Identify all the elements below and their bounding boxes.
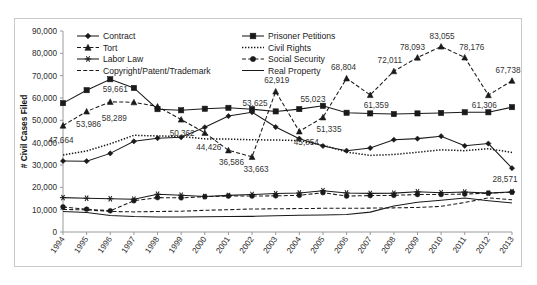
x-tick-label: 1999 [167,235,185,255]
data-point-label: 83,055 [430,32,455,41]
x-tick-label: 1996 [96,235,114,255]
data-point-label: 78,093 [400,43,425,52]
y-tick-label: 30,000 [32,161,57,170]
x-tick-label: 2001 [214,235,232,255]
x-tick-label: 2008 [380,235,398,255]
x-tick-label: 1994 [49,235,67,255]
y-tick-label: 60,000 [32,94,57,103]
x-axis: 1994199519961997199819992000200120022003… [49,232,516,255]
legend-item[interactable]: Social Security [242,54,326,64]
x-tick-label: 2012 [474,235,492,255]
y-tick-label: 70,000 [32,72,57,81]
legend-item[interactable]: Contract [77,31,136,41]
legend-item[interactable]: Civil Rights [242,43,311,53]
data-point-label: 51,335 [316,125,341,134]
legend-label: Contract [103,31,136,41]
legend-item[interactable]: Real Property [242,66,321,76]
y-tick-label: 50,000 [32,116,57,125]
series-line [63,135,512,155]
data-point-label: 61,306 [472,101,497,110]
legend-item[interactable]: Tort [77,43,118,53]
x-tick-label: 2004 [285,235,303,255]
data-point-label: 61,359 [364,101,389,110]
legend-item[interactable]: Labor Law [77,54,144,64]
data-point-label: 72,011 [378,56,403,65]
series-line [63,192,512,211]
data-point-label: 55,023 [300,95,325,104]
data-point-label: 67,738 [495,66,520,75]
y-tick-label: 90,000 [32,27,57,36]
data-point-label: 33,663 [244,165,269,174]
x-tick-label: 1997 [120,235,138,255]
data-point-label: 68,804 [331,63,356,72]
x-tick-label: 2002 [238,235,256,255]
x-tick-label: 2003 [262,235,280,255]
data-point-label: 53,986 [76,120,101,129]
series-line [63,112,512,168]
y-tick-label: 20,000 [32,183,57,192]
y-tick-label: 80,000 [32,49,57,58]
y-tick-label: 0 [52,228,57,237]
x-tick-label: 2013 [498,235,516,255]
x-tick-label: 1995 [72,235,90,255]
data-point-label: 28,571 [492,175,517,184]
series-markers [60,110,514,171]
legend-label: Civil Rights [268,43,311,53]
chart-container: 010,00020,00030,00040,00050,00060,00070,… [14,18,522,267]
y-axis: 010,00020,00030,00040,00050,00060,00070,… [32,27,63,237]
legend-label: Copyright/Patent/Trademark [103,66,211,76]
data-point-label: 78,176 [459,43,484,52]
x-tick-label: 2011 [451,235,469,255]
data-point-label: 44,426 [196,143,221,152]
data-point-label: 36,586 [219,158,244,167]
x-tick-label: 2000 [191,235,209,255]
x-tick-label: 2006 [332,235,350,255]
legend-label: Prisoner Petitions [268,31,335,41]
legend-label: Tort [103,43,118,53]
y-axis-label: # Civil Cases Filed [19,95,29,169]
legend-label: Real Property [268,66,321,76]
y-tick-label: 10,000 [32,206,57,215]
x-tick-label: 2010 [427,235,445,255]
y-axis-title: # Civil Cases Filed [19,95,29,169]
data-point-label: 59,661 [103,85,128,94]
x-tick-label: 2009 [403,235,421,255]
data-point-label: 62,919 [264,76,289,85]
legend-item[interactable]: Prisoner Petitions [242,31,335,41]
legend-item[interactable]: Copyright/Patent/Trademark [77,66,211,76]
x-tick-label: 2007 [356,235,374,255]
legend-label: Social Security [268,54,326,64]
x-tick-label: 2005 [309,235,327,255]
line-chart: 010,00020,00030,00040,00050,00060,00070,… [15,19,523,268]
legend-label: Labor Law [103,54,144,64]
data-point-label: 58,289 [102,114,127,123]
data-point-label: 53,625 [243,99,268,108]
data-point-label: 50,362 [170,129,195,138]
x-tick-label: 1998 [143,235,161,255]
series-line [63,198,512,217]
data-point-label: 45,054 [294,138,319,147]
chart-legend: ContractTortLabor LawCopyright/Patent/Tr… [77,31,335,76]
data-point-label: 47,664 [48,136,73,145]
